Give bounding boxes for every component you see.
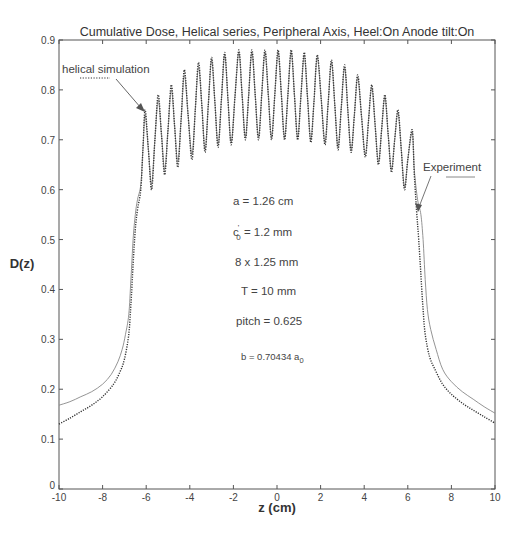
x-tick-label: 2 [318,492,324,503]
param-b: b = 0.70434 a0 [241,351,304,365]
chart-title: Cumulative Dose, Helical series, Periphe… [80,25,475,39]
parameter-block: a = 1.26 cm c'0 = 1.2 mm 8 x 1.25 mm T =… [233,195,304,365]
y-tick-label: 0.4 [41,284,55,295]
y-tick-label: 0.7 [41,135,55,146]
x-tick-label: -2 [229,492,238,503]
axis-ticks: -10-8-6-4-2024681000.10.20.30.40.50.60.7… [41,35,501,503]
x-tick-label: 6 [405,492,411,503]
x-tick-label: -8 [98,492,107,503]
param-pitch: pitch = 0.625 [236,315,302,327]
y-tick-label: 0.9 [41,35,55,46]
plot-area: -10-8-6-4-2024681000.10.20.30.40.50.60.7… [41,35,501,503]
experiment-arrow [419,176,431,207]
y-axis-label: D(z) [10,256,35,271]
y-tick-label: 0.5 [41,235,55,246]
x-tick-label: -6 [142,492,151,503]
experiment-arrowhead-icon [415,203,422,212]
y-tick-label: 0 [49,480,55,491]
x-axis-label: z (cm) [258,500,296,515]
param-T: T = 10 mm [241,285,296,297]
y-tick-label: 0.3 [41,334,55,345]
param-detector: 8 x 1.25 mm [235,256,298,268]
param-a: a = 1.26 cm [233,195,293,207]
helical-simulation-label: helical simulation [62,63,150,75]
y-tick-label: 0.1 [41,434,55,445]
x-tick-label: -10 [52,492,67,503]
x-tick-label: 10 [489,492,501,503]
param-c0: c'0 = 1.2 mm [233,223,292,242]
simulation-arrow [116,79,141,108]
y-tick-label: 0.2 [41,384,55,395]
experiment-label: Experiment [423,161,482,173]
y-tick-label: 0.8 [41,85,55,96]
x-tick-label: -4 [185,492,194,503]
y-tick-label: 0.6 [41,185,55,196]
x-tick-label: 8 [449,492,455,503]
chart-figure: Cumulative Dose, Helical series, Periphe… [0,0,515,537]
x-tick-label: 4 [361,492,367,503]
